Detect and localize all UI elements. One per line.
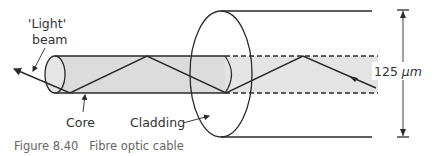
dimension-arrow-bottom — [400, 129, 406, 136]
dimension-label: 125 μm — [374, 64, 422, 79]
light-beam-pointer — [33, 48, 45, 71]
core-pointer — [83, 95, 85, 112]
fibre-optic-diagram: 'Light' beam Core Cladding 125 μm Figure… — [0, 0, 442, 156]
core-inside-cladding — [225, 56, 378, 93]
cladding-pointer — [183, 116, 209, 123]
figure-caption: Figure 8.40 Fibre optic cable — [14, 139, 184, 153]
dimension-value: 125 — [374, 64, 402, 79]
cladding-label: Cladding — [130, 115, 185, 130]
light-beam-label-line1: 'Light' — [28, 16, 66, 31]
core-end-ellipse — [45, 56, 65, 93]
dimension-arrow-top — [400, 11, 406, 18]
light-beam-label-line2: beam — [32, 32, 67, 47]
dimension-unit: μm — [401, 64, 422, 79]
core-label: Core — [66, 115, 95, 130]
